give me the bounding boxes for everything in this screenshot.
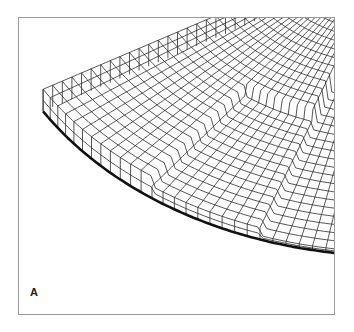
mesh-diagram <box>19 18 335 315</box>
figure-frame: A <box>18 17 335 315</box>
panel-label: A <box>30 286 38 298</box>
